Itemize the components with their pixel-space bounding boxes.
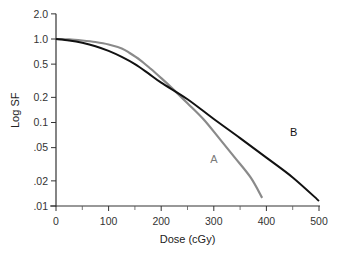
curve-label-a: A (210, 153, 218, 165)
x-tick-label: 200 (152, 215, 170, 227)
y-tick-label: 0.2 (33, 91, 48, 103)
x-axis-title: Dose (cGy) (160, 233, 216, 245)
curve-a (56, 39, 262, 198)
series-group (56, 39, 319, 201)
x-tick-label: 500 (310, 215, 328, 227)
y-tick-label: 0.1 (33, 116, 48, 128)
y-tick-label: 2.0 (33, 8, 48, 20)
x-tick-label: 400 (258, 215, 276, 227)
x-tick-label: 100 (100, 215, 118, 227)
curve-b (56, 39, 319, 201)
survival-curve-chart: 2.01.00.50.20.1.05.02.010100200300400500… (0, 0, 337, 254)
y-tick-label: 0.5 (33, 58, 48, 70)
y-axis-title: Log SF (9, 92, 21, 128)
x-tick-label: 0 (53, 215, 59, 227)
curve-label-b: B (290, 126, 297, 138)
y-tick-label: .02 (33, 175, 48, 187)
y-tick-label: .05 (33, 141, 48, 153)
y-tick-label: 1.0 (33, 33, 48, 45)
y-tick-label: .01 (33, 200, 48, 212)
x-tick-label: 300 (205, 215, 223, 227)
